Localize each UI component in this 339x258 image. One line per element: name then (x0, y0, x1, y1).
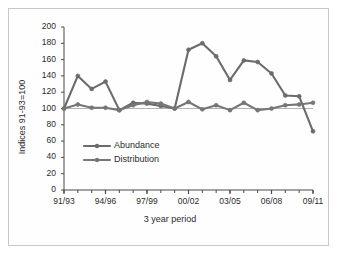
y-axis-tick-label: 160 (32, 54, 56, 64)
x-axis-tick-label: 03/05 (210, 196, 250, 206)
chart-container: Indices 91-93=100 3 year period Abundanc… (0, 0, 339, 258)
legend-label-abundance: Abundance (114, 140, 160, 150)
x-axis-tick-label: 09/11 (293, 196, 333, 206)
x-axis-tick-label: 97/99 (127, 196, 167, 206)
y-axis-tick-label: 200 (32, 21, 56, 31)
y-axis-tick-label: 140 (32, 70, 56, 80)
x-axis-tick-label: 91/93 (44, 196, 84, 206)
x-axis-tick-label: 00/02 (169, 196, 209, 206)
x-axis-title: 3 year period (105, 214, 235, 224)
y-axis-tick-label: 120 (32, 86, 56, 96)
y-axis-tick-label: 100 (32, 103, 56, 113)
y-axis-tick-label: 180 (32, 37, 56, 47)
y-axis-tick-label: 80 (32, 119, 56, 129)
y-axis-tick-label: 40 (32, 151, 56, 161)
y-axis-tick-label: 20 (32, 168, 56, 178)
y-axis-tick-label: 0 (32, 184, 56, 194)
legend-label-distribution: Distribution (114, 154, 159, 164)
y-axis-tick-label: 60 (32, 135, 56, 145)
x-axis-tick-label: 06/08 (252, 196, 292, 206)
y-axis-title: Indices 91-93=100 (17, 67, 27, 167)
x-axis-tick-label: 94/96 (86, 196, 126, 206)
